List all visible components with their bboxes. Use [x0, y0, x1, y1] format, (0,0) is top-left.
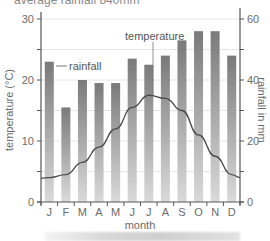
x-tick-label: A — [95, 206, 103, 218]
tick-labels: 01020300204060JFMAMJJASOND — [22, 13, 260, 218]
x-tick-label: J — [47, 206, 53, 218]
rainfall-bars — [45, 31, 236, 202]
x-tick-label: N — [211, 206, 219, 218]
temperature-line — [41, 95, 240, 178]
y-tick-label: 30 — [22, 13, 34, 25]
rainfall-bar — [194, 31, 203, 202]
x-tick-label: A — [162, 206, 170, 218]
rainfall-bar — [144, 65, 153, 202]
y-right-tick-label: 0 — [247, 196, 253, 208]
rainfall-bar — [211, 31, 220, 202]
decorative-strip — [45, 232, 240, 241]
rainfall-bar — [95, 83, 104, 202]
y-tick-label: 0 — [28, 196, 34, 208]
rainfall-bar — [161, 56, 170, 202]
rainfall-bar — [45, 62, 54, 202]
x-tick-label: J — [129, 206, 135, 218]
x-tick-label: D — [228, 206, 236, 218]
x-tick-label: O — [194, 206, 203, 218]
rainfall-bar — [128, 59, 137, 202]
x-tick-label: S — [178, 206, 185, 218]
x-tick-label: M — [111, 206, 120, 218]
x-tick-label: F — [63, 206, 70, 218]
rainfall-bar — [78, 80, 87, 202]
rainfall-bar — [61, 107, 70, 202]
rainfall-bar — [227, 56, 236, 202]
x-tick-label: M — [78, 206, 87, 218]
rainfall-bar — [111, 83, 120, 202]
y-tick-label: 10 — [22, 135, 34, 147]
climate-chart: 01020300204060JFMAMJJASOND rainfall temp… — [0, 0, 270, 241]
x-axis-title: month — [125, 219, 156, 231]
y-tick-label: 20 — [22, 74, 34, 86]
rainfall-bar — [177, 40, 186, 202]
temperature-annotation: temperature — [125, 30, 184, 42]
y-right-tick-label: 60 — [247, 13, 259, 25]
y-axis-title: temperature (°C) — [3, 69, 15, 151]
x-tick-label: J — [146, 206, 152, 218]
rainfall-annotation: rainfall — [69, 60, 101, 72]
y-axis-right-title: rainfall in mm — [256, 77, 268, 142]
